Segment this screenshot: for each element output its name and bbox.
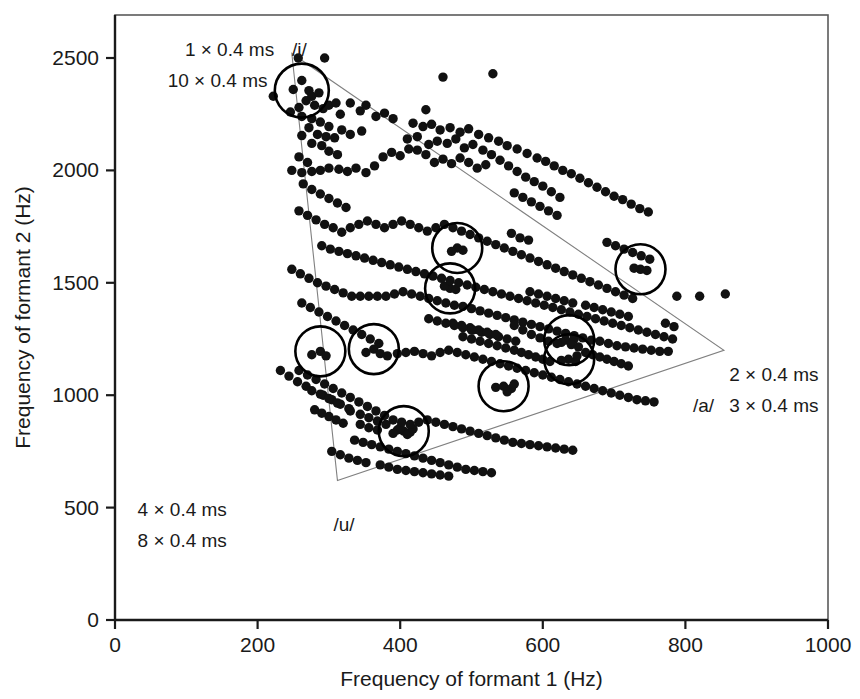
- scatter-point: [333, 198, 342, 207]
- scatter-point: [364, 413, 373, 422]
- scatter-point: [467, 325, 476, 334]
- scatter-point: [508, 247, 517, 256]
- scatter-point: [447, 159, 456, 168]
- scatter-point: [297, 298, 306, 307]
- scatter-point: [404, 144, 413, 153]
- scatter-point: [344, 404, 353, 413]
- y-axis-tick-label: 1000: [52, 383, 99, 406]
- scatter-point: [651, 330, 660, 339]
- scatter-point: [522, 296, 531, 305]
- scatter-point: [337, 125, 346, 134]
- scatter-point: [317, 241, 326, 250]
- scatter-point: [411, 267, 420, 276]
- scatter-point: [470, 352, 479, 361]
- scatter-point: [433, 316, 442, 325]
- scatter-point: [510, 321, 519, 330]
- x-axis-tick-label: 0: [109, 633, 121, 656]
- scatter-point: [484, 308, 493, 317]
- scatter-point: [468, 140, 477, 149]
- scatter-point: [475, 306, 484, 315]
- scatter-point: [321, 281, 330, 290]
- scatter-point: [482, 237, 491, 246]
- scatter-point: [530, 368, 539, 377]
- scatter-point: [304, 123, 313, 132]
- scatter-point: [410, 467, 419, 476]
- scatter-point: [525, 287, 534, 296]
- scatter-point: [627, 199, 636, 208]
- scatter-point: [387, 148, 396, 157]
- scatter-point: [324, 394, 333, 403]
- x-axis-tick-label: 800: [668, 633, 703, 656]
- scatter-point: [324, 163, 333, 172]
- scatter-point: [368, 256, 377, 265]
- scatter-point: [492, 311, 501, 320]
- scatter-point: [567, 169, 576, 178]
- scatter-point: [448, 422, 457, 431]
- scatter-point: [559, 444, 568, 453]
- scatter-point: [646, 346, 655, 355]
- scatter-point: [356, 292, 365, 301]
- scatter-point: [572, 351, 581, 360]
- scatter-point: [380, 108, 389, 117]
- scatter-point: [581, 301, 590, 310]
- scatter-point: [441, 319, 450, 328]
- scatter-point: [418, 122, 427, 131]
- scatter-point: [381, 420, 390, 429]
- scatter-point: [363, 216, 372, 225]
- scatter-point: [481, 160, 490, 169]
- scatter-point: [530, 177, 539, 186]
- scatter-point: [324, 147, 333, 156]
- scatter-point: [612, 341, 621, 350]
- scatter-point: [307, 139, 316, 148]
- scatter-point: [397, 216, 406, 225]
- scatter-point: [431, 417, 440, 426]
- scatter-point: [307, 350, 316, 359]
- duration-annotation: 10 × 0.4 ms: [168, 70, 268, 91]
- scatter-point: [511, 337, 520, 346]
- scatter-point: [403, 265, 412, 274]
- scatter-point: [381, 292, 390, 301]
- scatter-point: [458, 332, 467, 341]
- scatter-point: [502, 387, 511, 396]
- scatter-point: [316, 389, 325, 398]
- scatter-point: [313, 278, 322, 287]
- scatter-point: [454, 278, 463, 287]
- scatter-point: [484, 133, 493, 142]
- scatter-point: [327, 447, 336, 456]
- scatter-point: [361, 101, 370, 110]
- scatter-point: [518, 193, 527, 202]
- scatter-point: [482, 328, 491, 337]
- x-axis-tick-label: 400: [383, 633, 418, 656]
- scatter-point: [542, 260, 551, 269]
- scatter-point: [457, 226, 466, 235]
- scatter-point: [371, 406, 380, 415]
- scatter-point: [321, 132, 330, 141]
- scatter-point: [360, 253, 369, 262]
- duration-annotation: 2 × 0.4 ms: [729, 364, 818, 385]
- scatter-point: [299, 179, 308, 188]
- scatter-point: [418, 453, 427, 462]
- scatter-point: [552, 326, 561, 335]
- scatter-point: [510, 379, 519, 388]
- scatter-point: [310, 101, 319, 110]
- scatter-point: [397, 417, 406, 426]
- scatter-point: [371, 220, 380, 229]
- duration-annotation: 1 × 0.4 ms: [185, 39, 274, 60]
- scatter-point: [524, 235, 533, 244]
- scatter-point: [453, 348, 462, 357]
- scatter-point: [444, 346, 453, 355]
- scatter-point: [346, 223, 355, 232]
- scatter-point: [474, 130, 483, 139]
- scatter-point: [306, 303, 315, 312]
- scatter-point: [525, 440, 534, 449]
- scatter-point: [424, 314, 433, 323]
- plot-frame: [115, 15, 828, 620]
- scatter-point: [361, 168, 370, 177]
- scatter-point: [444, 460, 453, 469]
- scatter-point: [441, 298, 450, 307]
- scatter-point: [482, 431, 491, 440]
- scatter-point: [358, 438, 367, 447]
- scatter-point: [450, 301, 459, 310]
- scatter-point: [624, 393, 633, 402]
- scatter-point: [350, 435, 359, 444]
